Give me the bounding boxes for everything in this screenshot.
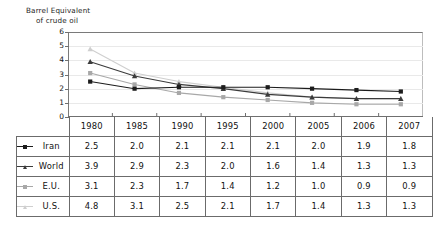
legend-label: Iran bbox=[36, 142, 69, 150]
table-cell: 1.7 bbox=[251, 197, 296, 217]
legend-marker-eu-icon bbox=[17, 182, 33, 191]
table-header-row: 19801985199019952000200520062007 bbox=[17, 117, 433, 137]
data-point-world-1980 bbox=[87, 59, 92, 64]
column-header-1980: 1980 bbox=[69, 117, 114, 137]
table-corner-cell bbox=[17, 117, 70, 137]
table-cell: 1.6 bbox=[251, 157, 296, 177]
y-tick-label: 1 bbox=[59, 99, 64, 107]
data-point-iran-1990 bbox=[177, 85, 181, 89]
data-point-eu-1980 bbox=[88, 71, 92, 75]
table-row: E.U.3.12.31.71.41.21.00.90.9 bbox=[17, 177, 433, 197]
table-cell: 3.1 bbox=[69, 177, 114, 197]
column-header-1990: 1990 bbox=[160, 117, 205, 137]
table-cell: 2.5 bbox=[69, 137, 114, 157]
table-cell: 1.2 bbox=[251, 177, 296, 197]
table-cell: 2.0 bbox=[114, 137, 159, 157]
table-cell: 1.8 bbox=[387, 137, 432, 157]
chart-figure: Barrel Equivalent of crude oil 0123456 1… bbox=[0, 0, 433, 229]
data-point-iran-1995 bbox=[221, 85, 225, 89]
column-header-2006: 2006 bbox=[341, 117, 386, 137]
data-point-eu-2007 bbox=[399, 102, 403, 106]
table-cell: 1.3 bbox=[341, 157, 386, 177]
y-tick-label: 5 bbox=[59, 42, 64, 50]
column-header-2005: 2005 bbox=[296, 117, 341, 137]
table-row: Iran2.52.02.12.12.12.01.91.8 bbox=[17, 137, 433, 157]
data-point-iran-1985 bbox=[132, 87, 136, 91]
table-cell: 1.4 bbox=[205, 177, 250, 197]
data-point-eu-1995 bbox=[221, 95, 225, 99]
legend-row-eu[interactable]: E.U. bbox=[17, 177, 70, 197]
legend-label: World bbox=[36, 162, 69, 170]
table-cell: 1.4 bbox=[296, 157, 341, 177]
data-point-iran-2000 bbox=[266, 85, 270, 89]
table-cell: 4.8 bbox=[69, 197, 114, 217]
y-tick-label: 4 bbox=[59, 57, 64, 65]
data-point-eu-2006 bbox=[354, 102, 358, 106]
data-point-eu-1990 bbox=[177, 91, 181, 95]
data-point-eu-2000 bbox=[266, 98, 270, 102]
table-cell: 2.1 bbox=[160, 137, 205, 157]
data-point-iran-2006 bbox=[354, 88, 358, 92]
table-cell: 1.0 bbox=[296, 177, 341, 197]
table-cell: 3.9 bbox=[69, 157, 114, 177]
series-lines bbox=[68, 32, 423, 117]
table-cell: 1.4 bbox=[296, 197, 341, 217]
legend-label: E.U. bbox=[36, 182, 69, 190]
column-header-1995: 1995 bbox=[205, 117, 250, 137]
table-cell: 1.3 bbox=[387, 197, 432, 217]
data-point-iran-2007 bbox=[399, 89, 403, 93]
table-cell: 2.0 bbox=[205, 157, 250, 177]
table-cell: 3.1 bbox=[114, 197, 159, 217]
table-row: U.S.4.83.12.52.11.71.41.31.3 bbox=[17, 197, 433, 217]
legend-row-world[interactable]: World bbox=[17, 157, 70, 177]
series-line-world bbox=[90, 62, 401, 99]
table-cell: 2.3 bbox=[114, 177, 159, 197]
table-cell: 2.0 bbox=[296, 137, 341, 157]
data-point-us-1980 bbox=[87, 46, 92, 51]
y-tick-label: 6 bbox=[59, 28, 64, 36]
table-cell: 2.1 bbox=[205, 197, 250, 217]
legend-row-iran[interactable]: Iran bbox=[17, 137, 70, 157]
column-header-2000: 2000 bbox=[251, 117, 296, 137]
data-point-iran-2005 bbox=[310, 87, 314, 91]
data-point-eu-2005 bbox=[310, 101, 314, 105]
table-cell: 1.7 bbox=[160, 177, 205, 197]
table-cell: 1.9 bbox=[341, 137, 386, 157]
legend-marker-iran-icon bbox=[17, 142, 33, 151]
table-cell: 0.9 bbox=[387, 177, 432, 197]
legend-marker-world-icon bbox=[17, 162, 33, 171]
legend-label: U.S. bbox=[36, 202, 69, 210]
table-cell: 0.9 bbox=[341, 177, 386, 197]
y-tick-label: 2 bbox=[59, 85, 64, 93]
y-axis-title: Barrel Equivalent of crude oil bbox=[26, 6, 90, 25]
table-cell: 1.3 bbox=[387, 157, 432, 177]
table-cell: 2.1 bbox=[251, 137, 296, 157]
column-header-2007: 2007 bbox=[387, 117, 432, 137]
table-cell: 1.3 bbox=[341, 197, 386, 217]
table-cell: 2.9 bbox=[114, 157, 159, 177]
data-point-eu-1985 bbox=[132, 82, 136, 86]
legend-marker-us-icon bbox=[17, 202, 33, 211]
y-axis-title-line1: Barrel Equivalent bbox=[26, 6, 90, 15]
table-cell: 2.1 bbox=[205, 137, 250, 157]
table-row: World3.92.92.32.01.61.41.31.3 bbox=[17, 157, 433, 177]
column-header-1985: 1985 bbox=[114, 117, 159, 137]
y-tick-label: 3 bbox=[59, 71, 64, 79]
data-point-iran-1980 bbox=[88, 79, 92, 83]
data-table: 19801985199019952000200520062007Iran2.52… bbox=[16, 117, 433, 217]
table-cell: 2.5 bbox=[160, 197, 205, 217]
table-cell: 2.3 bbox=[160, 157, 205, 177]
data-table-wrapper: 19801985199019952000200520062007Iran2.52… bbox=[16, 117, 423, 217]
y-axis-title-line2: of crude oil bbox=[26, 16, 90, 26]
legend-row-us[interactable]: U.S. bbox=[17, 197, 70, 217]
plot-area: 0123456 bbox=[68, 32, 423, 117]
